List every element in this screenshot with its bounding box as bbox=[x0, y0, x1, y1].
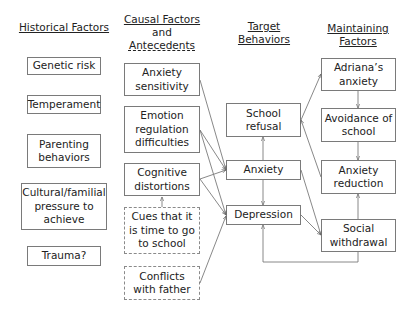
target-behaviors-header: Target Behaviors bbox=[228, 20, 300, 46]
node-conflicts-with-father: Conflicts with father bbox=[124, 266, 200, 300]
arrow-anxred-to-schoolrefusal bbox=[301, 120, 321, 177]
node-label: Genetic risk bbox=[33, 59, 96, 73]
node-school-refusal: School refusal bbox=[226, 103, 301, 137]
node-label: Depression bbox=[234, 208, 293, 222]
arrow-cognitive-to-depression bbox=[200, 179, 226, 215]
maintaining-factors-title-line2: Factors bbox=[318, 35, 398, 48]
node-cognitive-distortions: Cognitive distortions bbox=[124, 163, 200, 196]
node-label: Avoidance of school bbox=[324, 112, 393, 139]
node-emotion-regulation-difficulties: Emotion regulation difficulties bbox=[124, 106, 200, 153]
node-depression: Depression bbox=[226, 205, 301, 225]
arrow-anxiety-to-social bbox=[301, 170, 321, 235]
arrow-emotion-to-anxiety bbox=[200, 130, 226, 170]
historical-factors-title: Historical Factors bbox=[14, 21, 114, 34]
node-label: Social withdrawal bbox=[324, 222, 393, 249]
node-label: Trauma? bbox=[42, 249, 87, 263]
node-social-withdrawal: Social withdrawal bbox=[321, 219, 396, 252]
node-parenting-behaviors: Parenting behaviors bbox=[27, 134, 101, 168]
node-label: Temperament bbox=[28, 98, 101, 112]
node-label: Cultural/familial pressure to achieve bbox=[22, 186, 105, 227]
arrow-depression-to-social bbox=[301, 215, 321, 235]
node-label: Conflicts with father bbox=[127, 270, 197, 297]
node-label: Adriana’s anxiety bbox=[324, 61, 393, 88]
causal-factors-title-line1: Causal Factors bbox=[117, 13, 207, 26]
node-label: Cognitive distortions bbox=[127, 166, 197, 193]
arrow-emotion-to-depression bbox=[200, 130, 226, 215]
node-avoidance-of-school: Avoidance of school bbox=[321, 108, 396, 142]
arrow-conflicts-to-depression bbox=[200, 216, 226, 283]
node-temperament: Temperament bbox=[27, 95, 101, 114]
node-label: Anxiety bbox=[244, 163, 284, 177]
node-trauma: Trauma? bbox=[27, 246, 101, 266]
node-cues-time-to-go-to-school: Cues that it is time to go to school bbox=[124, 207, 200, 254]
node-label: Cues that it is time to go to school bbox=[127, 210, 197, 251]
arrow-anxsens-to-anxiety bbox=[200, 80, 226, 170]
maintaining-factors-title-line1: Maintaining bbox=[318, 22, 398, 35]
arrow-schoolrefusal-to-adriana bbox=[301, 74, 321, 120]
node-label: Emotion regulation difficulties bbox=[127, 109, 197, 150]
maintaining-factors-header: Maintaining Factors bbox=[318, 22, 398, 48]
causal-factors-header: Causal Factors and Antecedents bbox=[117, 13, 207, 52]
node-cultural-familial-pressure: Cultural/familial pressure to achieve bbox=[21, 183, 107, 230]
causal-factors-title-line2: and bbox=[117, 26, 207, 39]
node-label: School refusal bbox=[229, 107, 298, 134]
node-label: Anxiety sensitivity bbox=[127, 66, 197, 93]
target-behaviors-title-line2: Behaviors bbox=[228, 33, 300, 46]
node-adrianas-anxiety: Adriana’s anxiety bbox=[321, 58, 396, 91]
arrow-cognitive-to-anxiety bbox=[200, 170, 226, 179]
historical-factors-header: Historical Factors bbox=[14, 21, 114, 34]
node-label: Parenting behaviors bbox=[30, 138, 98, 165]
node-genetic-risk: Genetic risk bbox=[27, 57, 101, 75]
node-anxiety: Anxiety bbox=[226, 160, 301, 180]
node-label: Anxiety reduction bbox=[324, 164, 393, 191]
node-anxiety-reduction: Anxiety reduction bbox=[321, 160, 396, 194]
node-anxiety-sensitivity: Anxiety sensitivity bbox=[124, 63, 200, 96]
causal-factors-title-line3: Antecedents bbox=[117, 39, 207, 52]
target-behaviors-title-line1: Target bbox=[228, 20, 300, 33]
